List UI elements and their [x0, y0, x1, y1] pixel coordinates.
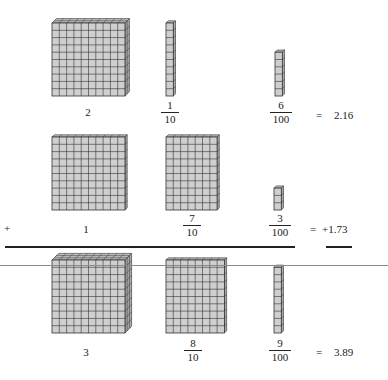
- row3-equals-sign: =: [316, 346, 322, 358]
- denominator: 10: [161, 114, 179, 125]
- numerator: 3: [269, 213, 291, 224]
- denominator: 100: [270, 114, 292, 125]
- denominator: 10: [184, 352, 202, 363]
- numerator: 7: [183, 213, 201, 224]
- row1-equals-sign: =: [316, 109, 322, 121]
- denominator: 100: [269, 352, 291, 363]
- denominator: 10: [183, 227, 201, 238]
- page-divider-line: [0, 265, 388, 266]
- numerator: 9: [269, 338, 291, 349]
- denominator: 100: [269, 227, 291, 238]
- sum-line-blocks: [5, 246, 295, 248]
- base-ten-blocks-canvas: [0, 0, 388, 380]
- row1-value: 2.16: [334, 109, 353, 121]
- row2-value: +1.73: [322, 223, 347, 235]
- row3-ones-label: 3: [80, 346, 92, 358]
- row3-tenths-fraction: 8 10: [184, 338, 202, 363]
- numerator: 6: [270, 100, 292, 111]
- numerator: 1: [161, 100, 179, 111]
- row2-hundredths-fraction: 3 100: [269, 213, 291, 238]
- row1-hundredths-fraction: 6 100: [270, 100, 292, 125]
- row2-ones-label: 1: [80, 223, 92, 235]
- row1-tenths-fraction: 1 10: [161, 100, 179, 125]
- row3-value: 3.89: [334, 346, 353, 358]
- row3-hundredths-fraction: 9 100: [269, 338, 291, 363]
- row2-equals-sign: =: [310, 223, 316, 235]
- plus-operator: +: [4, 222, 10, 234]
- row-2-blocks: [52, 135, 284, 210]
- row-1-blocks: [52, 19, 285, 96]
- row2-tenths-fraction: 7 10: [183, 213, 201, 238]
- numerator: 8: [184, 338, 202, 349]
- row1-ones-label: 2: [82, 106, 94, 118]
- sum-line-values: [326, 246, 352, 248]
